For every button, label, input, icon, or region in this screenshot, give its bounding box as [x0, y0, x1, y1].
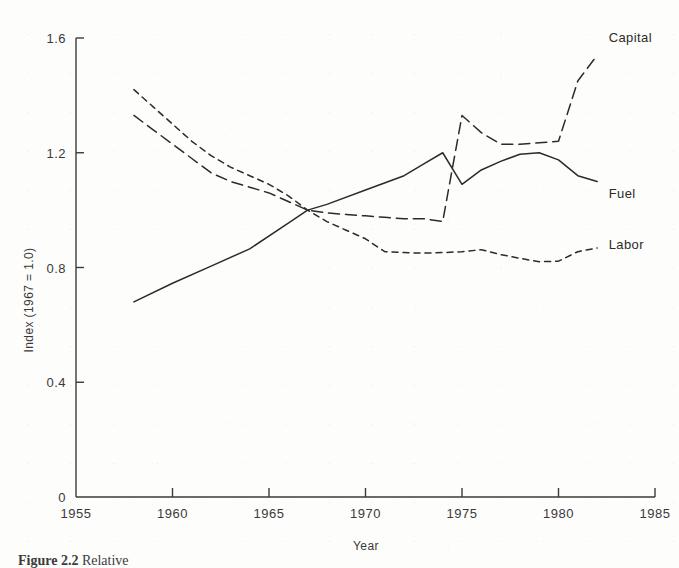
- series-label-capital: Capital: [609, 30, 652, 45]
- series-label-fuel: Fuel: [609, 186, 636, 201]
- x-axis-title: Year: [353, 539, 379, 553]
- x-tick-label: 1970: [350, 506, 381, 521]
- figure-caption-text: Relative: [82, 553, 129, 568]
- economic-index-line-chart: 00.40.81.21.6 19551960196519701975198019…: [0, 0, 679, 568]
- series-label-labor: Labor: [609, 237, 645, 252]
- series-inline-labels: CapitalFuelLabor: [609, 30, 652, 252]
- x-tick-label: 1965: [254, 506, 285, 521]
- y-tick-label: 0: [58, 490, 66, 505]
- series-line-labor: [134, 90, 597, 262]
- y-axis-tick-labels: 00.40.81.21.6: [46, 31, 66, 505]
- series-line-capital: [134, 55, 597, 221]
- x-tick-label: 1980: [543, 506, 574, 521]
- figure-caption-number: Figure 2.2: [18, 553, 78, 568]
- y-tick-label: 1.2: [46, 146, 66, 161]
- x-axis-tick-labels: 1955196019651970197519801985: [61, 506, 671, 521]
- y-tick-label: 0.8: [46, 261, 66, 276]
- y-axis-title: Index (1967 = 1.0): [22, 248, 36, 353]
- figure-caption: Figure 2.2 Relative: [18, 553, 129, 568]
- x-tick-label: 1975: [447, 506, 478, 521]
- data-series: [134, 55, 597, 302]
- x-tick-label: 1985: [640, 506, 671, 521]
- axes: [76, 38, 655, 497]
- y-axis-ticks: [76, 38, 84, 382]
- x-axis-ticks: [173, 488, 656, 497]
- y-tick-label: 1.6: [46, 31, 66, 46]
- y-tick-label: 0.4: [46, 375, 66, 390]
- figure-container: 00.40.81.21.6 19551960196519701975198019…: [0, 0, 679, 568]
- series-line-fuel: [134, 153, 597, 302]
- x-tick-label: 1960: [157, 506, 188, 521]
- x-tick-label: 1955: [61, 506, 92, 521]
